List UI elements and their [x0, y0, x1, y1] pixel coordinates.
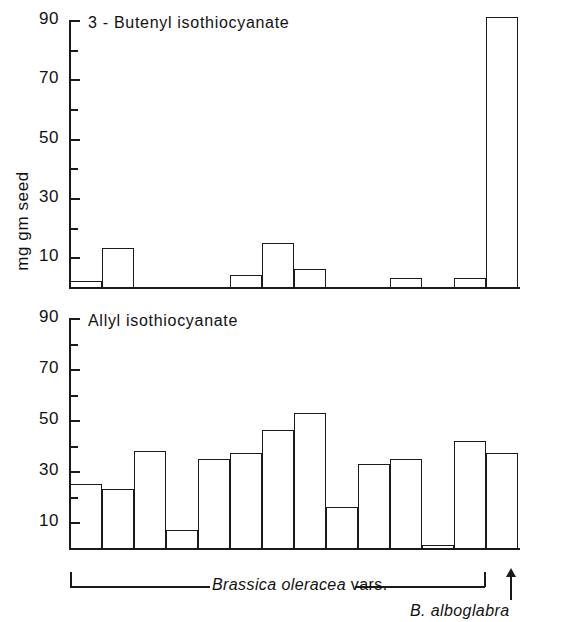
bar: [326, 507, 358, 548]
figure-root: mg gm seed 3 - Butenyl isothiocyanate 10…: [0, 0, 572, 622]
bar-series: [0, 0, 572, 291]
bar: [294, 413, 326, 548]
bottom-bracket-annotation: Brassica oleracea vars. B. alboglabra: [0, 560, 572, 622]
bar: [102, 248, 134, 287]
group-label: Brassica oleracea vars.: [212, 576, 388, 594]
up-arrow-icon: [506, 568, 516, 577]
bar: [390, 459, 422, 548]
bar: [454, 278, 486, 287]
bracket-tick-right: [484, 572, 486, 587]
outlier-label: B. alboglabra: [410, 602, 510, 620]
plot-area-butenyl: 1030507090: [0, 0, 572, 300]
outlier-arrow-shaft: [510, 574, 512, 600]
bar: [390, 278, 422, 287]
group-label-roman: vars.: [346, 576, 388, 593]
bracket-tick-left: [70, 572, 72, 587]
bar: [262, 243, 294, 288]
bar: [70, 484, 102, 548]
bar: [198, 459, 230, 548]
bar-series: [0, 300, 572, 552]
bracket-horizontal-left: [70, 586, 210, 588]
bar: [422, 545, 454, 548]
bar: [358, 464, 390, 548]
bar: [70, 281, 102, 287]
bar: [294, 269, 326, 287]
panel-butenyl: 3 - Butenyl isothiocyanate 1030507090: [0, 0, 572, 300]
bar: [102, 489, 134, 548]
bar: [230, 453, 262, 548]
bar: [486, 17, 518, 287]
bar: [134, 451, 166, 548]
group-label-italic: Brassica oleracea: [212, 576, 346, 593]
bar: [262, 430, 294, 548]
bar: [166, 530, 198, 548]
bar: [454, 441, 486, 548]
bar: [486, 453, 518, 548]
bar: [230, 275, 262, 287]
